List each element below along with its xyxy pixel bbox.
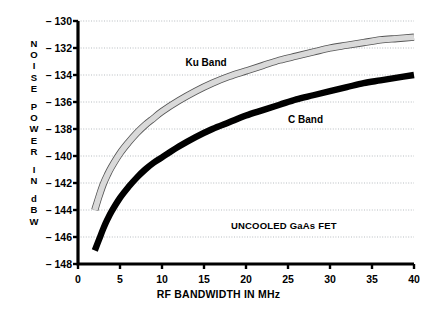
chart-figure: NOISEPOWERINdBW – 130– 132– 134– 136– 13…	[0, 0, 437, 312]
series-label-c-band: C Band	[288, 114, 323, 125]
y-tick-label: – 132	[36, 42, 72, 54]
x-tick-label: 25	[272, 273, 304, 285]
y-tick-label: – 142	[36, 177, 72, 189]
y-tick-label: – 134	[36, 69, 72, 81]
y-tick-label: – 136	[36, 96, 72, 108]
x-tick-label: 0	[62, 273, 94, 285]
series-label-ku-band: Ku Band	[186, 57, 227, 68]
y-tick-label: – 130	[36, 15, 72, 27]
x-tick-label: 10	[146, 273, 178, 285]
x-axis-title: RF BANDWIDTH IN MHz	[0, 288, 437, 300]
annotation-text: UNCOOLED GaAs FET	[231, 220, 337, 231]
x-tick-label: 5	[104, 273, 136, 285]
x-tick-label: 15	[188, 273, 220, 285]
x-tick-label: 35	[356, 273, 388, 285]
x-tick-label: 40	[398, 273, 430, 285]
x-tick-label: 30	[314, 273, 346, 285]
x-tick-label: 20	[230, 273, 262, 285]
y-tick-label: – 146	[36, 231, 72, 243]
series-line-ku-band	[95, 37, 414, 210]
y-tick-label: – 140	[36, 150, 72, 162]
y-tick-label: – 144	[36, 204, 72, 216]
y-tick-label: – 138	[36, 123, 72, 135]
y-tick-label: – 148	[36, 258, 72, 270]
